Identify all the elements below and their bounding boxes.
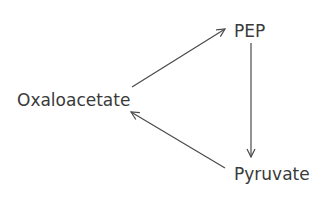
node-pyruvate: Pyruvate — [234, 164, 310, 184]
arrow-pyruvate-to-oxaloacetate — [131, 112, 225, 168]
metabolic-cycle-diagram: PEP Oxaloacetate Pyruvate — [0, 0, 323, 197]
node-pep: PEP — [234, 21, 265, 41]
node-oxaloacetate: Oxaloacetate — [17, 90, 130, 110]
arrow-oxaloacetate-to-pep — [132, 29, 225, 87]
